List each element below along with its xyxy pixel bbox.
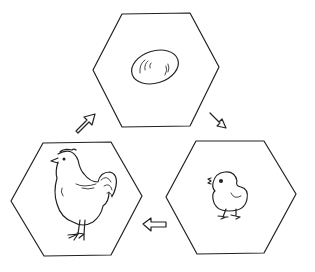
stage-hen bbox=[11, 142, 142, 256]
hexagon-chick bbox=[166, 141, 296, 254]
arrow-up-right-icon bbox=[76, 114, 95, 133]
stage-chick bbox=[166, 141, 296, 254]
arrow-egg-to-chick bbox=[210, 113, 226, 128]
hexagon-hen bbox=[11, 142, 142, 256]
arrow-chick-to-hen bbox=[143, 218, 166, 231]
hen-icon bbox=[51, 149, 116, 240]
stage-egg bbox=[93, 13, 219, 127]
diagram-canvas bbox=[0, 0, 315, 272]
arrow-hen-to-egg bbox=[76, 114, 95, 133]
arrow-left-icon bbox=[143, 218, 166, 231]
arrow-down-right-icon bbox=[210, 113, 226, 128]
egg-icon bbox=[127, 44, 183, 89]
hexagon-egg bbox=[93, 13, 219, 127]
life-cycle-diagram: Egg Chick Chicken bbox=[0, 0, 315, 272]
chick-icon bbox=[208, 172, 247, 219]
